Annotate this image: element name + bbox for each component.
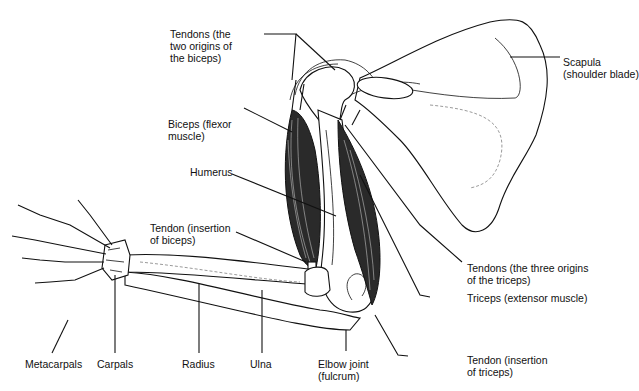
label-humerus: Humerus xyxy=(190,166,233,178)
label-ulna: Ulna xyxy=(250,358,272,370)
label-triceps: Triceps (extensor muscle) xyxy=(467,292,587,304)
label-carpals: Carpals xyxy=(97,358,133,370)
arm-anatomy-diagram: Tendons (the two origins of the biceps) … xyxy=(0,0,639,391)
anatomy-drawing xyxy=(0,0,639,391)
hand-drawing xyxy=(12,200,130,283)
label-tendons-triceps-origin: Tendons (the three origins of the tricep… xyxy=(467,262,588,286)
label-scapula: Scapula (shoulder blade) xyxy=(563,56,639,80)
label-tendons-biceps-origin: Tendons (the two origins of the biceps) xyxy=(170,28,232,64)
scapula-drawing xyxy=(350,20,547,232)
label-radius: Radius xyxy=(182,358,215,370)
label-elbow-joint: Elbow joint (fulcrum) xyxy=(318,358,369,382)
label-metacarpals: Metacarpals xyxy=(25,358,82,370)
label-biceps: Biceps (flexor muscle) xyxy=(168,118,232,142)
label-tendon-biceps-insertion: Tendon (insertion of biceps) xyxy=(150,222,231,246)
label-tendon-triceps-insertion: Tendon (insertion of triceps) xyxy=(467,354,548,378)
